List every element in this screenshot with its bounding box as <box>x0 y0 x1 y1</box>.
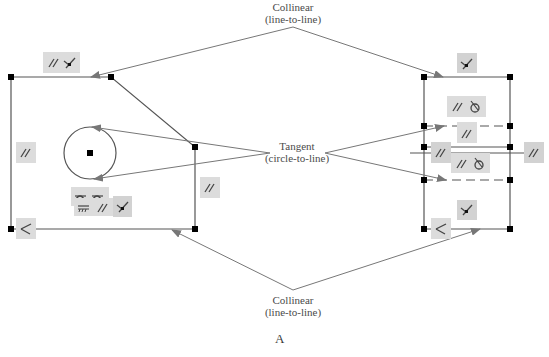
right-badge-mid-left[interactable] <box>431 142 451 163</box>
left-badge-bottom-left[interactable] <box>16 218 36 239</box>
left-badge-top[interactable] <box>43 52 80 73</box>
left-badge-circle-row2[interactable] <box>74 196 132 217</box>
tangent-label: Tangent (circle-to-line) <box>247 140 347 164</box>
right-badge-mid-right[interactable] <box>524 142 544 163</box>
left-badge-left[interactable] <box>16 142 36 163</box>
right-badge-dashed1[interactable] <box>457 122 477 143</box>
collinear-bottom-line1: Collinear <box>243 294 343 306</box>
tangent-line2: (circle-to-line) <box>247 152 347 164</box>
right-badge-mid[interactable] <box>451 153 490 173</box>
collinear-top-line1: Collinear <box>243 1 343 13</box>
right-badge-top[interactable] <box>457 53 477 73</box>
collinear-bottom-label: Collinear (line-to-line) <box>243 294 343 318</box>
collinear-bottom-line2: (line-to-line) <box>243 306 343 318</box>
right-badge-lower[interactable] <box>457 200 477 220</box>
right-badge-upper[interactable] <box>447 96 486 117</box>
collinear-top-line2: (line-to-line) <box>243 13 343 25</box>
figure-label: A <box>275 331 284 347</box>
tangent-line1: Tangent <box>247 140 347 152</box>
collinear-top-label: Collinear (line-to-line) <box>243 1 343 25</box>
right-badge-bottom-left[interactable] <box>431 218 451 239</box>
left-badge-right[interactable] <box>200 177 220 198</box>
